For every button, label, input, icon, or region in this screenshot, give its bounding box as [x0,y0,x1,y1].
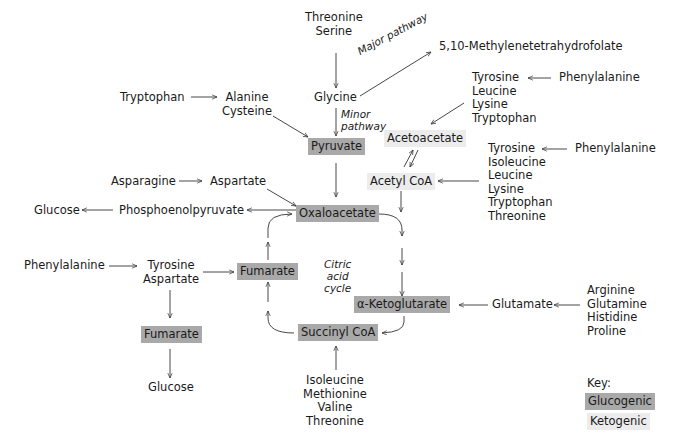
alpha-ketoglutarate-box: α-Ketoglutarate [354,296,450,313]
phenylalanine-label-2: Phenylalanine [575,142,656,156]
key-ketogenic: Ketogenic [587,413,650,430]
alanine-text: Alanine [222,91,272,105]
amino-acid: Arginine [587,284,647,298]
ketogenic-group-1: Tyrosine Leucine Lysine Tryptophan [472,71,537,125]
succinyl-coa-box: Succinyl CoA [298,324,378,341]
acetyl-coa-box: Acetyl CoA [367,173,435,190]
amino-acid: Leucine [488,169,553,183]
tyrosine-text: Tyrosine [143,259,199,273]
minor-text: Minor [341,108,386,120]
amino-acid: Methionine [303,388,367,402]
amino-acid: Glutamine [587,298,647,312]
citric-acid-cycle-label: Citric acid cycle [324,258,351,294]
alanine-cysteine-label: Alanine Cysteine [222,91,272,118]
glucose-bottom-label: Glucose [148,381,194,395]
glucose-top-label: Glucose [34,204,80,218]
serine-text: Serine [305,25,363,39]
phenylalanine-left-label: Phenylalanine [24,259,105,273]
phenylalanine-label-1: Phenylalanine [559,71,640,85]
asparagine-label: Asparagine [111,175,176,189]
cycle-text: cycle [324,282,351,294]
pyruvate-box: Pyruvate [308,138,365,155]
oxaloacetate-box: Oxaloacetate [296,205,379,222]
succinyl-coa-precursors: Isoleucine Methionine Valine Threonine [303,374,367,428]
aspartate-label: Aspartate [210,175,266,189]
amino-acid: Isoleucine [303,374,367,388]
tyrosine-aspartate-label: Tyrosine Aspartate [143,259,199,286]
tryptophan-label: Tryptophan [120,91,185,105]
methylenetetrahydrofolate-label: 5,10-Methylenetetrahydrofolate [439,40,623,54]
amino-acid: Tryptophan [488,196,553,210]
aspartate-text: Aspartate [143,273,199,287]
minor-pathway-label: Minor pathway [341,108,386,132]
key-title: Key: [587,377,611,391]
amino-acid: Leucine [472,85,537,99]
amino-acid: Threonine [303,415,367,429]
threonine-serine-label: Threonine Serine [305,11,363,38]
ketogenic-group-2: Tyrosine Isoleucine Leucine Lysine Trypt… [488,142,553,223]
glycine-label: Glycine [314,91,357,105]
amino-acid: Tyrosine [488,142,553,156]
amino-acid: Isoleucine [488,156,553,170]
acetoacetate-box: Acetoacetate [384,130,466,147]
glutamate-label: Glutamate [492,298,553,312]
amino-acid: Lysine [488,183,553,197]
fumarate-cycle-box: Fumarate [237,263,298,280]
citric-text: Citric [324,258,351,270]
cysteine-text: Cysteine [222,105,272,119]
amino-acid: Threonine [488,210,553,224]
threonine-text: Threonine [305,11,363,25]
key-glucogenic: Glucogenic [585,393,655,410]
amino-acid: Lysine [472,98,537,112]
phosphoenolpyruvate-label: Phosphoenolpyruvate [119,204,244,218]
amino-acid: Tyrosine [472,71,537,85]
amino-acid: Proline [587,325,647,339]
amino-acid: Valine [303,401,367,415]
acid-text: acid [324,270,351,282]
amino-acid: Tryptophan [472,112,537,126]
fumarate-side-box: Fumarate [141,326,202,343]
amino-acid: Histidine [587,311,647,325]
glutamate-precursors: Arginine Glutamine Histidine Proline [587,284,647,338]
pathway-text: pathway [341,120,386,132]
